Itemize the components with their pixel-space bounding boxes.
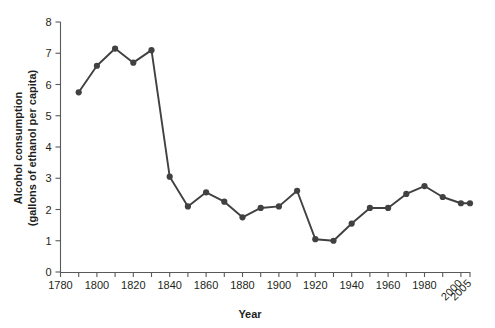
data-point [367, 205, 373, 211]
data-point [221, 199, 227, 205]
data-point [276, 203, 282, 209]
x-tick-group: 1780180018201840186018801900192019401960… [48, 272, 473, 303]
y-tick-label: 1 [45, 235, 51, 247]
y-tick-label: 4 [45, 141, 51, 153]
y-tick-label: 5 [45, 110, 51, 122]
y-tick-group: 012345678 [45, 16, 60, 278]
data-point [349, 220, 355, 226]
data-point [130, 60, 136, 66]
x-tick-label: 1860 [194, 279, 218, 291]
y-axis-title-line2: (gallons of ethanol per capita) [26, 69, 38, 226]
data-point [112, 45, 118, 51]
series-line [79, 49, 470, 241]
x-tick-label: 1780 [48, 279, 72, 291]
x-tick-label: 1960 [376, 279, 400, 291]
x-tick-label: 1880 [230, 279, 254, 291]
y-tick-label: 2 [45, 204, 51, 216]
data-point [185, 203, 191, 209]
y-tick-label: 8 [45, 16, 51, 28]
data-point [76, 89, 82, 95]
chart-canvas: 012345678 178018001820184018601880190019… [0, 0, 495, 328]
y-tick-label: 7 [45, 47, 51, 59]
x-tick-label: 1900 [267, 279, 291, 291]
data-point [239, 214, 245, 220]
data-point [421, 183, 427, 189]
data-series-group [76, 45, 474, 243]
x-tick-label: 1920 [303, 279, 327, 291]
data-point [167, 174, 173, 180]
x-tick-label: 1940 [339, 279, 363, 291]
data-point [403, 191, 409, 197]
x-tick-label: 1800 [85, 279, 109, 291]
y-tick-label: 6 [45, 79, 51, 91]
x-axis-title: Year [238, 308, 262, 320]
y-axis-group: 012345678 [45, 16, 60, 278]
data-point [203, 189, 209, 195]
data-point [94, 63, 100, 69]
x-tick-label: 1820 [121, 279, 145, 291]
data-point [312, 236, 318, 242]
data-point [385, 205, 391, 211]
x-tick-label: 1840 [157, 279, 181, 291]
data-point [330, 238, 336, 244]
data-point [440, 194, 446, 200]
alcohol-consumption-line-chart: 012345678 178018001820184018601880190019… [0, 0, 495, 328]
data-point [294, 188, 300, 194]
data-point [258, 205, 264, 211]
x-axis-group: 1780180018201840186018801900192019401960… [48, 272, 473, 303]
y-tick-label: 3 [45, 172, 51, 184]
data-point [458, 200, 464, 206]
y-axis-title-line1: Alcohol consumption [12, 92, 24, 205]
x-tick-label: 1980 [412, 279, 436, 291]
data-point [467, 200, 473, 206]
y-tick-label: 0 [45, 266, 51, 278]
data-point [148, 47, 154, 53]
